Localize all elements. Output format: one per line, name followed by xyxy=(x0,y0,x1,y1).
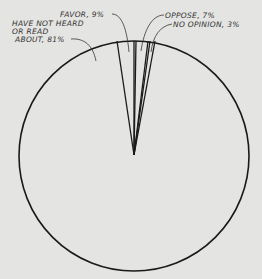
callout-leaders xyxy=(71,14,172,61)
label-no-opinion: NO OPINION, 3% xyxy=(173,20,240,29)
leader-favor xyxy=(112,14,129,52)
label-have-not-heard-3: ABOUT, 81% xyxy=(14,35,65,44)
slice-dividers xyxy=(117,41,155,155)
pie-chart: FAVOR, 9% HAVE NOT HEARD OR READ ABOUT, … xyxy=(0,0,262,279)
label-favor: FAVOR, 9% xyxy=(60,10,104,19)
label-oppose: OPPOSE, 7% xyxy=(165,11,215,20)
